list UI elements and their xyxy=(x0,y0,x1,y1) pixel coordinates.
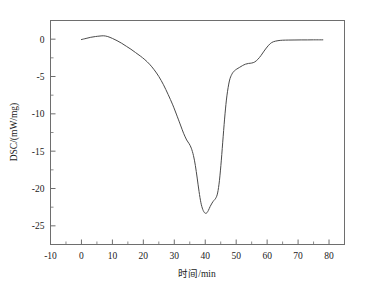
x-tick-label: 80 xyxy=(324,251,334,261)
y-axis-title: DSC/(mW/mg) xyxy=(9,103,20,162)
y-tick-label: 0 xyxy=(40,35,45,45)
x-tick-label: 70 xyxy=(293,251,303,261)
y-tick-label: -25 xyxy=(32,221,45,231)
x-tick-label: 40 xyxy=(200,251,210,261)
x-tick-label: 20 xyxy=(139,251,149,261)
y-tick-label: -15 xyxy=(32,147,45,157)
x-tick-label: -10 xyxy=(44,251,57,261)
dsc-chart-figure: -1001020304050607080 0-5-10-15-20-25 时间/… xyxy=(0,0,367,292)
x-tick-label: 60 xyxy=(262,251,272,261)
x-tick-label: 50 xyxy=(231,251,241,261)
y-tick-label: -5 xyxy=(37,72,45,82)
x-axis-title: 时间/min xyxy=(178,268,216,279)
x-tick-label: 0 xyxy=(79,251,84,261)
figure-background xyxy=(0,0,367,292)
y-tick-label: -10 xyxy=(32,109,45,119)
x-tick-label: 30 xyxy=(170,251,180,261)
x-tick-label: 10 xyxy=(108,251,118,261)
y-tick-label: -20 xyxy=(32,184,45,194)
chart-canvas: -1001020304050607080 0-5-10-15-20-25 时间/… xyxy=(0,0,367,292)
